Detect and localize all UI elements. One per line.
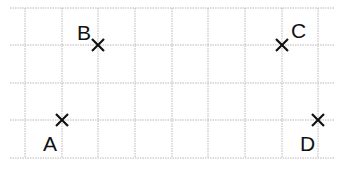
point-label: D — [300, 132, 315, 155]
grid-diagram: ABCD — [0, 0, 350, 169]
point-c: C — [276, 19, 306, 51]
point-label: C — [291, 19, 306, 42]
point-label: A — [43, 132, 57, 155]
point-label: B — [77, 21, 91, 44]
point-b: B — [77, 21, 104, 51]
grid — [10, 8, 335, 158]
